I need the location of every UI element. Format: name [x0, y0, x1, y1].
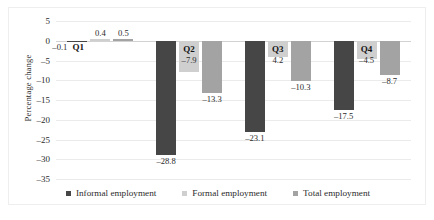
y-axis-tick-label: –30	[37, 154, 51, 164]
bar-value-label: –23.1	[234, 133, 276, 143]
bar-total-q3	[291, 41, 311, 82]
legend-item-0[interactable]: Informal employment	[66, 188, 156, 198]
legend-swatch-icon	[293, 191, 298, 196]
group-label-q3: Q3	[268, 44, 288, 54]
legend-item-1[interactable]: Formal employment	[182, 188, 267, 198]
gridline	[56, 179, 411, 180]
bar-value-label: –28.8	[145, 156, 187, 166]
legend-label: Informal employment	[76, 188, 156, 198]
bar-total-q1	[113, 39, 133, 41]
chart-container: Percentage change 50–5–10–15–20–25–30–35…	[8, 7, 426, 205]
y-axis-tick-label: –5	[41, 56, 50, 66]
bar-value-label: 0.5	[102, 28, 144, 38]
y-axis-title: Percentage change	[23, 28, 33, 148]
legend-label: Formal employment	[192, 188, 267, 198]
bar-total-q4	[380, 41, 400, 75]
gridline	[56, 100, 411, 101]
gridline	[56, 21, 411, 22]
bar-value-label: –0.1	[41, 42, 67, 52]
plot-area: 50–5–10–15–20–25–30–35 –0.10.40.5Q1–28.8…	[56, 21, 411, 179]
bar-value-label: –10.3	[280, 82, 322, 92]
y-axis-tick-label: –35	[37, 174, 51, 184]
group-label-q4: Q4	[357, 44, 377, 54]
bar-total-q2	[202, 41, 222, 94]
legend-swatch-icon	[182, 191, 187, 196]
chart-legend: Informal employmentFormal employmentTota…	[9, 188, 427, 198]
bar-informal-q4	[334, 41, 354, 110]
gridline	[56, 159, 411, 160]
bar-value-label: –8.7	[369, 76, 411, 86]
bar-value-label: –13.3	[191, 94, 233, 104]
y-axis-tick-label: 5	[46, 16, 51, 26]
y-axis-tick-label: –10	[37, 75, 51, 85]
gridline	[56, 80, 411, 81]
y-axis-tick-label: –20	[37, 115, 51, 125]
group-label-q1: Q1	[68, 42, 88, 52]
legend-item-2[interactable]: Total employment	[293, 188, 370, 198]
legend-label: Total employment	[303, 188, 370, 198]
bar-value-label: –17.5	[323, 111, 365, 121]
legend-swatch-icon	[66, 191, 71, 196]
group-label-q2: Q2	[179, 44, 199, 54]
bar-formal-q1	[90, 39, 110, 41]
y-axis-tick-label: –25	[37, 135, 51, 145]
y-axis-tick-label: –15	[37, 95, 51, 105]
